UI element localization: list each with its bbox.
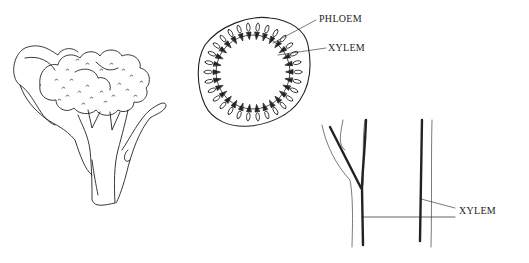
label-phloem: PHLOEM [319, 13, 362, 24]
stem-cross-section [198, 17, 326, 126]
label-xylem-long: XYLEM [459, 205, 496, 216]
diagram-canvas [0, 0, 529, 263]
stem-longitudinal-section [322, 120, 455, 247]
xylem-phloem-ring [204, 23, 302, 121]
label-xylem-cross: XYLEM [328, 42, 365, 53]
broccoli-illustration [14, 46, 166, 205]
